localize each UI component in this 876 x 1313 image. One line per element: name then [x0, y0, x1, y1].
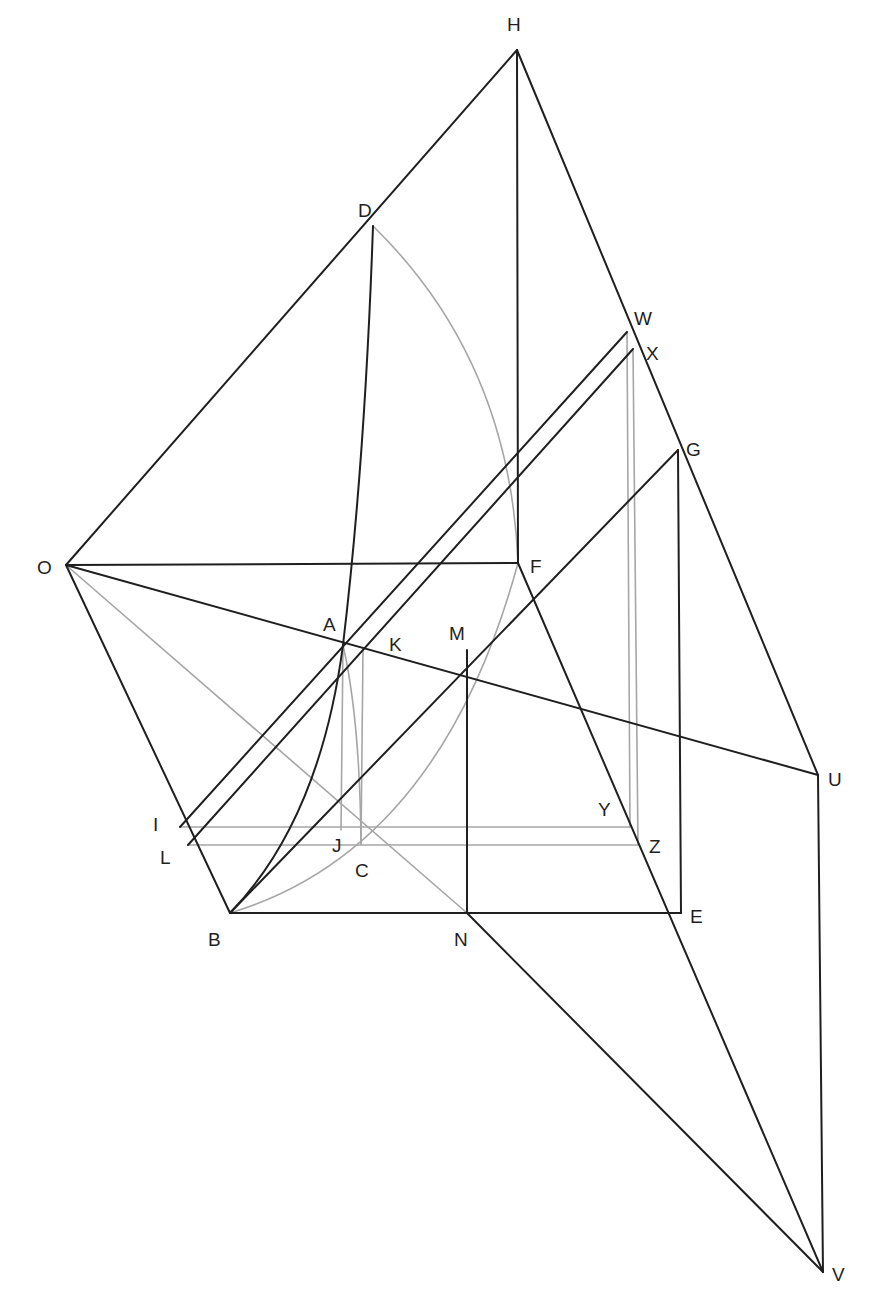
- label-O: O: [37, 557, 52, 578]
- label-Y: Y: [598, 799, 611, 820]
- line-O-N: [66, 565, 467, 913]
- label-V: V: [832, 1264, 845, 1285]
- line-I-W: [180, 332, 627, 827]
- line-L-X: [188, 349, 633, 845]
- arc-F-B: [230, 563, 518, 913]
- label-K: K: [389, 634, 402, 655]
- primary-lines: [66, 50, 823, 1272]
- line-O-F: [66, 563, 518, 565]
- label-L: L: [160, 847, 171, 868]
- line-U-V: [818, 775, 823, 1272]
- label-I: I: [153, 814, 158, 835]
- line-O-U: [66, 565, 818, 775]
- label-B: B: [208, 929, 221, 950]
- line-N-V: [467, 913, 823, 1272]
- label-F: F: [530, 556, 542, 577]
- label-C: C: [355, 860, 369, 881]
- point-labels: H D W X G O F A K M U I Y L J C Z B N E …: [37, 14, 845, 1285]
- label-M: M: [449, 623, 465, 644]
- label-E: E: [690, 906, 703, 927]
- line-X-Z: [633, 349, 638, 845]
- label-D: D: [358, 200, 372, 221]
- line-B-G: [230, 450, 678, 913]
- line-H-F: [517, 50, 518, 563]
- arc-D-F: [373, 226, 518, 563]
- line-O-B: [66, 565, 230, 913]
- label-G: G: [686, 439, 701, 460]
- line-G-E: [678, 450, 681, 913]
- label-U: U: [828, 769, 842, 790]
- curve-D-A-B: [230, 226, 373, 913]
- label-Z: Z: [649, 836, 661, 857]
- line-F-V: [518, 563, 823, 1272]
- label-A: A: [323, 614, 336, 635]
- geometric-construction-diagram: H D W X G O F A K M U I Y L J C Z B N E …: [0, 0, 876, 1313]
- label-X: X: [646, 343, 659, 364]
- line-O-H: [66, 50, 517, 565]
- label-W: W: [634, 308, 652, 329]
- label-J: J: [332, 835, 342, 856]
- label-N: N: [454, 929, 468, 950]
- label-H: H: [507, 14, 521, 35]
- line-W-Y: [627, 332, 630, 827]
